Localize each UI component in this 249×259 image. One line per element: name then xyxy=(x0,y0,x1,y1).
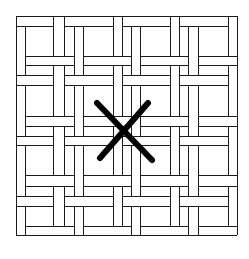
x-mark-icon xyxy=(97,103,152,160)
lattice-figure xyxy=(0,0,249,259)
